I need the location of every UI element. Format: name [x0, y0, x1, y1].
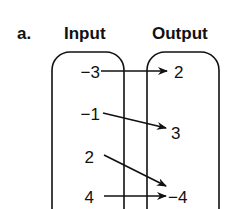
output-header: Output	[152, 24, 208, 43]
input-value: 2	[85, 148, 94, 167]
output-value: 2	[174, 63, 183, 82]
input-value: −3	[81, 63, 100, 82]
arrow-neg1-to-3	[103, 113, 166, 128]
output-value: −4	[168, 188, 187, 207]
part-label: a.	[17, 24, 31, 43]
input-value: −1	[81, 105, 100, 124]
input-header: Input	[64, 24, 106, 43]
input-value: 4	[85, 188, 94, 207]
mapping-diagram: a. Input Output −3 −1 2 4 2 3 −4	[0, 0, 234, 209]
arrow-2-to-neg4	[104, 155, 166, 186]
output-value: 3	[171, 124, 180, 143]
